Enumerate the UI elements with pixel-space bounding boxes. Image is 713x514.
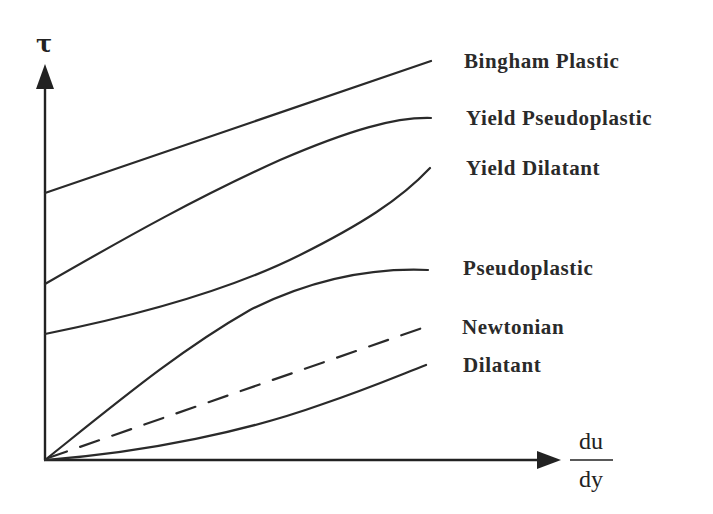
curve-yield-pseudoplastic <box>45 118 431 284</box>
curve-newtonian <box>48 326 428 458</box>
label-dilatant: Dilatant <box>463 353 541 377</box>
rheology-diagram: τ du dy Bingham Plastic Yield Pseudoplas… <box>0 0 713 514</box>
x-axis-label-denominator: dy <box>579 466 603 492</box>
label-newtonian: Newtonian <box>462 315 564 339</box>
label-pseudoplastic: Pseudoplastic <box>463 256 593 280</box>
label-bingham-plastic: Bingham Plastic <box>464 49 619 73</box>
label-yield-dilatant: Yield Dilatant <box>466 156 600 180</box>
x-axis-label-numerator: du <box>579 428 603 454</box>
curve-dilatant <box>45 365 426 460</box>
curve-pseudoplastic <box>45 270 428 460</box>
y-axis-label: τ <box>36 29 52 58</box>
label-yield-pseudoplastic: Yield Pseudoplastic <box>466 106 652 130</box>
x-axis-arrow-icon <box>537 451 561 469</box>
y-axis-arrow-icon <box>36 64 54 89</box>
